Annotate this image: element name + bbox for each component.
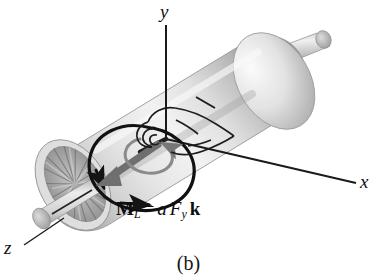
moment-equation: ML=aFyk xyxy=(116,198,200,222)
equation-force-subscript: y xyxy=(181,207,186,221)
equation-moment-symbol: M xyxy=(116,198,134,219)
equation-moment-subscript: L xyxy=(134,207,141,221)
equation-equals: = xyxy=(144,198,155,219)
equation-coefficient: a xyxy=(157,198,167,219)
diagram-canvas xyxy=(0,0,377,279)
axis-label-x: x xyxy=(360,172,368,191)
equation-force-symbol: F xyxy=(170,198,182,219)
figure-panel: y x z ML=aFyk (b) xyxy=(0,0,377,279)
axis-label-y: y xyxy=(160,2,168,21)
figure-caption: (b) xyxy=(0,252,377,275)
equation-unit-vector: k xyxy=(190,198,201,219)
